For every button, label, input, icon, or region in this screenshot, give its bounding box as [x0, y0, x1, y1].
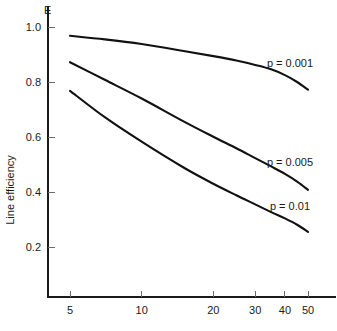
line-efficiency-chart: 51020304050 0.20.40.60.81.0 p = 0.001p =…: [0, 0, 337, 331]
axes-group: [48, 6, 336, 297]
y-tick-label-0.4: 0.4: [26, 186, 41, 198]
y-tick-label-0.8: 0.8: [26, 76, 41, 88]
x-tick-label-30: 30: [249, 304, 261, 316]
series-label-2: p = 0.01: [270, 200, 310, 212]
y-axis-symbol-label: E: [44, 4, 51, 16]
axis-lines: [48, 6, 336, 297]
y-axis-ticks: [48, 27, 55, 247]
series-label-1: p = 0.005: [267, 156, 313, 168]
y-tick-label-0.2: 0.2: [26, 241, 41, 253]
x-axis-ticks: [70, 291, 308, 297]
y-tick-label-0.6: 0.6: [26, 131, 41, 143]
series-label-0: p = 0.001: [267, 57, 313, 69]
x-tick-label-20: 20: [207, 304, 219, 316]
y-axis-tick-labels: 0.20.40.60.81.0: [26, 21, 41, 253]
x-axis-tick-labels: 51020304050: [67, 304, 314, 316]
y-axis-title: Line efficiency: [4, 155, 16, 225]
x-tick-label-50: 50: [302, 304, 314, 316]
chart-canvas: 51020304050 0.20.40.60.81.0 p = 0.001p =…: [0, 0, 337, 331]
x-tick-label-5: 5: [67, 304, 73, 316]
x-tick-label-10: 10: [136, 304, 148, 316]
y-tick-label-1: 1.0: [26, 21, 41, 33]
x-tick-label-40: 40: [279, 304, 291, 316]
